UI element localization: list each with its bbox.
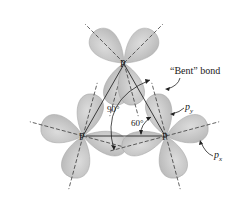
- angle-label-90: 90°: [107, 104, 120, 114]
- atom-label-top: P: [120, 58, 126, 69]
- callout-bent-bond: “Bent” bond: [170, 65, 220, 76]
- callout-arrow-px: [201, 142, 213, 156]
- arrowhead-90-top: [145, 79, 150, 84]
- atom-label-right: P: [162, 131, 168, 142]
- callout-arrowhead-bent-bond: [165, 87, 170, 91]
- py-subscript: y: [189, 107, 194, 115]
- px-subscript: x: [218, 155, 223, 163]
- p4-bent-bond-diagram: P P P 90° 60° “Bent” bond py px: [0, 0, 241, 208]
- callout-py: py: [184, 101, 194, 115]
- callout-px: px: [213, 149, 223, 163]
- angle-label-60: 60°: [131, 118, 144, 128]
- outer-lobes: [26, 14, 222, 192]
- callout-arrow-bent-bond: [167, 78, 180, 89]
- atom-label-left: P: [79, 131, 85, 142]
